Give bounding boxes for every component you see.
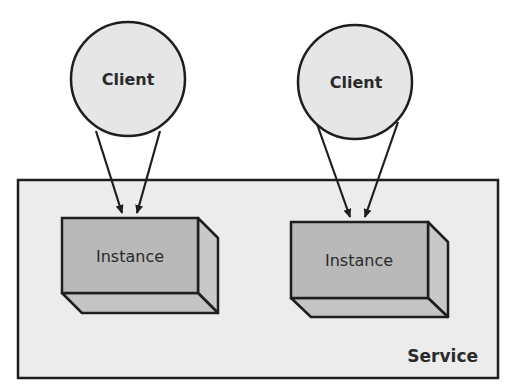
instance-label-2: Instance	[325, 251, 393, 270]
client-label-2: Client	[330, 73, 383, 92]
client-label-1: Client	[102, 70, 155, 89]
instance-box-1: Instance	[62, 218, 218, 313]
client-node-2: Client	[298, 25, 412, 139]
instance-2-bottom-face	[291, 298, 448, 317]
instance-box-2: Instance	[291, 222, 448, 317]
client-node-1: Client	[71, 22, 185, 136]
diagram-canvas: Service Instance Instance Client Client	[0, 0, 514, 391]
instance-label-1: Instance	[96, 247, 164, 266]
service-label: Service	[407, 346, 478, 366]
instance-1-bottom-face	[62, 293, 218, 313]
